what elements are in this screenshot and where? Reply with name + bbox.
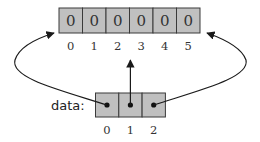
top-array-value-1: 0 [89, 12, 99, 30]
pointer-arrows [15, 33, 247, 105]
top-array-value-4: 0 [160, 12, 170, 30]
top-array-index-1: 1 [91, 39, 98, 53]
data-array-index-2: 2 [150, 123, 157, 137]
top-array-index-2: 2 [114, 39, 121, 53]
top-array-index-0: 0 [67, 39, 74, 53]
top-array-value-5: 0 [183, 12, 193, 30]
array-pointer-diagram: 0 0 0 0 0 0 0 1 2 3 4 5 data: 0 1 2 [0, 0, 260, 142]
top-array: 0 0 0 0 0 0 0 1 2 3 4 5 [59, 8, 200, 53]
top-array-value-2: 0 [113, 12, 123, 30]
data-array: data: 0 1 2 [51, 93, 165, 137]
data-array-index-1: 1 [127, 123, 134, 137]
top-array-index-3: 3 [138, 39, 145, 53]
top-array-value-3: 0 [136, 12, 146, 30]
data-array-index-0: 0 [103, 123, 110, 137]
data-label: data: [51, 98, 85, 113]
top-array-index-4: 4 [161, 39, 168, 53]
top-array-value-0: 0 [66, 12, 76, 30]
top-array-index-5: 5 [185, 39, 192, 53]
